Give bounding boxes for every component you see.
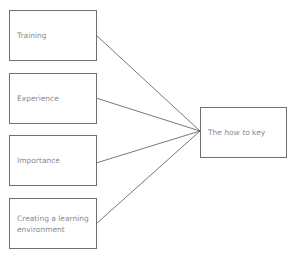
box-label: Importance [17,155,60,166]
emphasis-how-to: how to [224,128,249,137]
box-how-to-key: The how to key [200,107,287,158]
connector-importance [96,131,200,163]
connector-learning-environment [96,131,200,224]
box-importance: Importance [9,135,97,186]
box-label: The how to key [208,127,265,138]
box-training: Training [9,10,97,61]
box-learning-environment: Creating a learning environment [9,198,97,249]
box-label: Training [17,30,47,41]
connector-training [96,35,200,131]
connector-experience [96,98,200,131]
box-label: Creating a learning environment [17,213,89,235]
box-experience: Experience [9,73,97,124]
box-label: Experience [17,93,59,104]
